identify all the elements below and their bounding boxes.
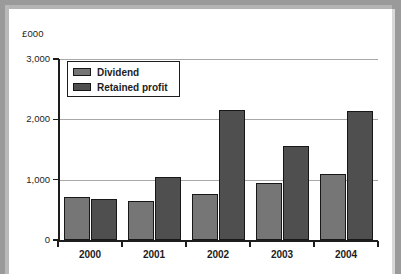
x-axis-label-2002: 2002 bbox=[188, 249, 248, 260]
legend-swatch-dividend bbox=[73, 68, 91, 76]
y-tick-mark-2000 bbox=[53, 119, 59, 121]
x-tick-mark-2000 bbox=[57, 241, 59, 247]
bar-dividend-2000 bbox=[64, 197, 90, 240]
scan-backdrop: £000 01,0002,0003,000 DividendRetained p… bbox=[0, 0, 401, 274]
chart-legend: DividendRetained profit bbox=[67, 61, 180, 97]
bar-retained-profit-2000 bbox=[91, 199, 117, 240]
x-tick-mark-2001 bbox=[121, 241, 123, 247]
x-axis-label-2000: 2000 bbox=[60, 249, 120, 260]
y-tick-label-2000: 2,000 bbox=[4, 113, 50, 124]
legend-entry-dividend: Dividend bbox=[73, 65, 179, 79]
bar-retained-profit-2003 bbox=[283, 146, 309, 240]
y-tick-label-1000: 1,000 bbox=[4, 174, 50, 185]
legend-entry-retained-profit: Retained profit bbox=[73, 80, 179, 94]
x-tick-mark-2002 bbox=[185, 241, 187, 247]
bar-retained-profit-2004 bbox=[347, 111, 373, 240]
bar-dividend-2001 bbox=[128, 201, 154, 240]
bar-dividend-2003 bbox=[256, 183, 282, 240]
y-tick-mark-3000 bbox=[53, 58, 59, 60]
bar-retained-profit-2002 bbox=[219, 110, 245, 240]
y-tick-label-0: 0 bbox=[4, 234, 50, 245]
legend-label-dividend: Dividend bbox=[97, 67, 139, 78]
x-tick-mark-end bbox=[377, 241, 379, 247]
y-axis-line bbox=[58, 59, 60, 241]
x-tick-mark-2004 bbox=[313, 241, 315, 247]
y-tick-label-3000: 3,000 bbox=[4, 53, 50, 64]
x-tick-mark-2003 bbox=[249, 241, 251, 247]
gridline-3000 bbox=[58, 59, 378, 60]
legend-swatch-retained-profit bbox=[73, 83, 91, 91]
x-axis-line bbox=[58, 240, 378, 242]
bar-retained-profit-2001 bbox=[155, 177, 181, 240]
y-tick-mark-1000 bbox=[53, 179, 59, 181]
bar-chart: £000 01,0002,0003,000 DividendRetained p… bbox=[0, 0, 401, 274]
legend-label-retained-profit: Retained profit bbox=[97, 82, 168, 93]
bar-dividend-2002 bbox=[192, 194, 218, 240]
bar-dividend-2004 bbox=[320, 174, 346, 240]
x-axis-label-2001: 2001 bbox=[124, 249, 184, 260]
y-axis-tick-labels: 01,0002,0003,000 bbox=[0, 0, 50, 274]
x-axis-label-2004: 2004 bbox=[316, 249, 376, 260]
x-axis-label-2003: 2003 bbox=[252, 249, 312, 260]
